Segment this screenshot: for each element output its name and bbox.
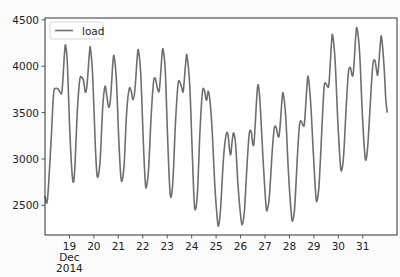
x-tick-label: 20 — [87, 240, 100, 252]
x-tick-label: 29 — [307, 240, 320, 252]
y-tick-label: 4500 — [12, 14, 39, 26]
legend: load — [50, 22, 104, 39]
x-tick-label: 27 — [258, 240, 271, 252]
x-tick-label: 24 — [185, 240, 199, 252]
x-tick-label: 30 — [332, 240, 345, 252]
x-tick-label: 23 — [161, 240, 174, 252]
x-tick-label: 25 — [209, 240, 222, 252]
legend-label-load: load — [82, 25, 104, 37]
y-tick-label: 3000 — [12, 153, 39, 165]
x-tick-label: 21 — [112, 240, 125, 252]
x-year-label: 2014 — [56, 262, 83, 274]
x-tick-label: 26 — [234, 240, 248, 252]
line-chart: 25003000350040004500 1920212223242526272… — [0, 0, 400, 277]
y-tick-label: 2500 — [12, 199, 39, 211]
x-tick-label: 22 — [136, 240, 149, 252]
y-tick-label: 4000 — [12, 60, 39, 72]
y-tick-label: 3500 — [12, 107, 39, 119]
x-tick-label: 28 — [283, 240, 296, 252]
x-tick-label: 31 — [356, 240, 369, 252]
